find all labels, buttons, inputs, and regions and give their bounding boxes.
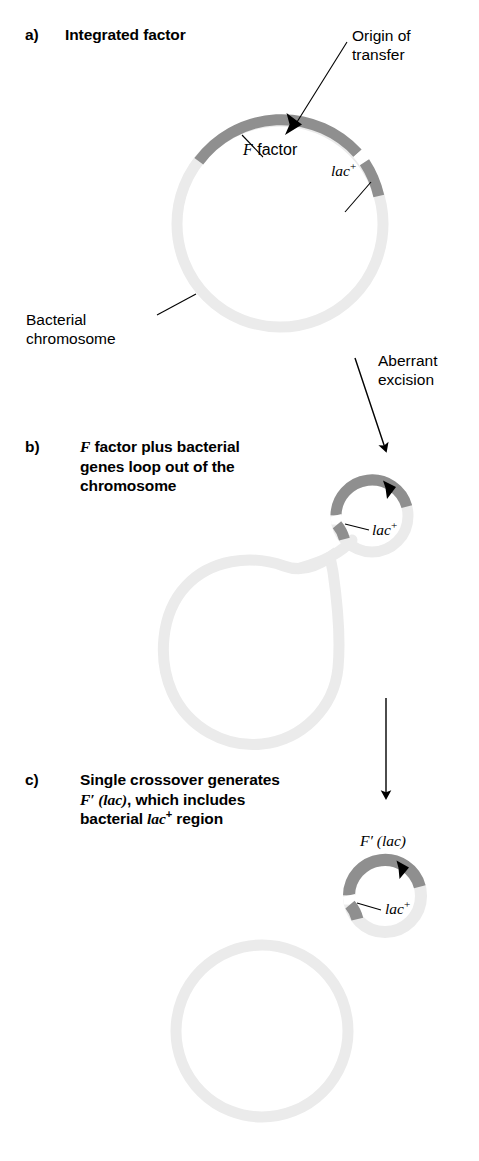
- panel-c-lac-sup: +: [166, 808, 172, 820]
- origin-of-transfer-label-line1: Origin of: [352, 26, 411, 45]
- panel-a-plasmid: [157, 42, 383, 327]
- lac-plus-sup-b: +: [391, 519, 397, 531]
- panel-b-heading-line1: F factor plus bacterial: [80, 437, 240, 457]
- lac-plus-sup-c: +: [404, 898, 410, 910]
- panel-b-f-factor-arc: [336, 480, 407, 515]
- origin-of-transfer-leader: [297, 42, 347, 122]
- lac-plus-label-b: lac+: [372, 521, 397, 539]
- lac-plus-base-c: lac: [385, 900, 404, 917]
- origin-of-transfer-label-line2: transfer: [352, 45, 405, 64]
- panel-b-gap: [336, 515, 337, 524]
- bacterial-chromosome-label-line2: chromosome: [26, 329, 116, 348]
- lac-plus-label-a: lac+: [331, 162, 356, 180]
- panel-c-letter: c): [25, 770, 39, 790]
- aberrant-excision-label-line1: Aberrant: [378, 351, 437, 370]
- panel-a-letter: a): [25, 25, 39, 45]
- bacterial-chromosome-leader: [157, 294, 196, 315]
- figure-canvas: a) Integrated factor Origin of transfer …: [0, 0, 479, 1161]
- panel-b-chromosome-loop: [163, 557, 339, 745]
- lac-plus-label-c: lac+: [385, 900, 410, 918]
- panel-b-heading-line1-rest: factor plus bacterial: [90, 438, 239, 455]
- aberrant-excision-label-line2: excision: [378, 370, 434, 389]
- panel-c-chromosome-ring: [176, 945, 348, 1117]
- panel-c-products: [176, 860, 421, 1117]
- lac-plus-base-b: lac: [372, 521, 391, 538]
- panel-c-lac-glyph: lac: [147, 810, 166, 827]
- f-prime-lac-label: F′ (lac): [360, 832, 406, 850]
- f-factor-label-word: factor: [253, 141, 297, 158]
- panel-b-heading-line3: chromosome: [80, 476, 240, 496]
- diagram-svg: [0, 0, 479, 1161]
- panel-c-heading: Single crossover generates F′ (lac), whi…: [80, 770, 280, 829]
- panel-c-heading-line1: Single crossover generates: [80, 770, 280, 790]
- panel-c-gap: [349, 895, 350, 904]
- panel-b-heading: F factor plus bacterial genes loop out o…: [80, 437, 240, 496]
- f-factor-label-f: F: [243, 141, 253, 158]
- lac-plus-base-a: lac: [331, 162, 350, 179]
- lac-plus-leader-c: [357, 903, 381, 910]
- lac-plus-leader-b: [345, 524, 369, 530]
- panel-a-heading: Integrated factor: [65, 25, 186, 45]
- panel-c-heading-line2: F′ (lac), which includes: [80, 790, 280, 810]
- panel-c-heading-line3: bacterial lac+ region: [80, 809, 280, 829]
- panel-b-heading-line2: genes loop out of the: [80, 457, 240, 477]
- bacterial-chromosome-label-line1: Bacterial: [26, 310, 86, 329]
- panel-c-f-factor-arc: [349, 860, 420, 895]
- panel-c-fprime-glyph: F′ (lac): [80, 791, 127, 808]
- lac-plus-sup-a: +: [350, 160, 356, 172]
- lac-plus-leader-a: [345, 182, 371, 212]
- panel-b-letter: b): [25, 437, 40, 457]
- panel-a-gap: [358, 153, 365, 162]
- panel-b-f-glyph: F: [80, 438, 90, 455]
- panel-c-heading-line2-rest: , which includes: [127, 791, 245, 808]
- panel-c-lac-plus-arc: [350, 905, 357, 919]
- f-factor-label: F factor: [243, 141, 297, 159]
- panel-b-structure: [163, 480, 408, 745]
- panel-b-lac-plus-arc: [337, 525, 344, 539]
